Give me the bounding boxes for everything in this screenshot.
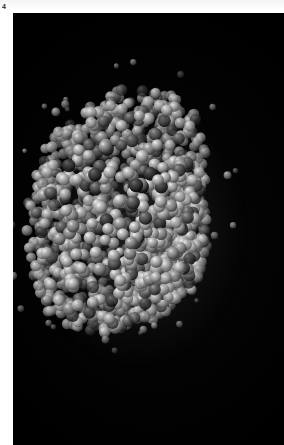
molecule-figure <box>13 13 284 445</box>
space-filling-molecular-model <box>13 13 284 445</box>
figure-plate: 4 <box>0 0 284 445</box>
figure-number-label: 4 <box>2 3 6 11</box>
image-panel <box>13 13 284 445</box>
